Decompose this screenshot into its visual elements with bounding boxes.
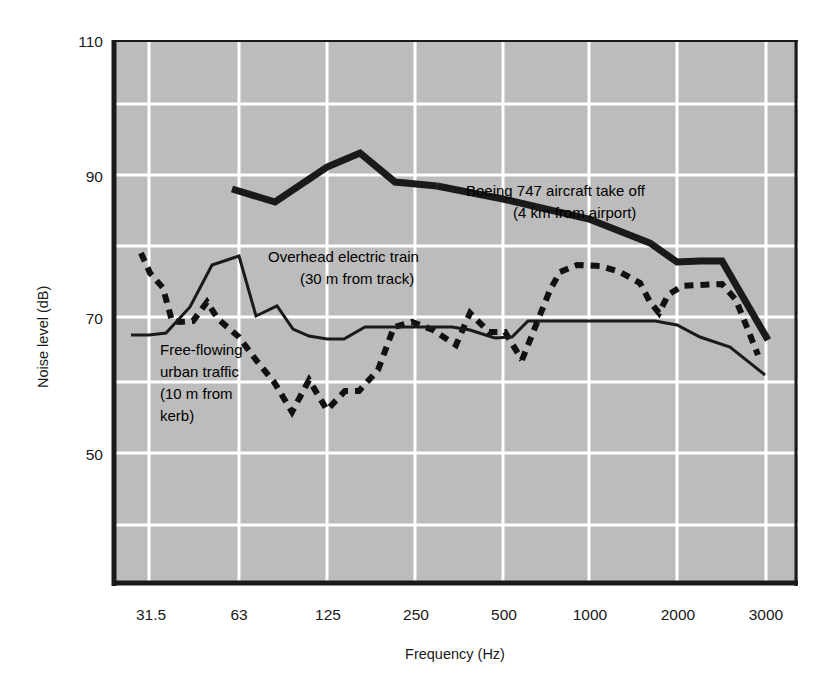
x-axis-ticks: 31.5 63 125 250 500 1000 2000 3000 (136, 606, 784, 623)
annotation-train-line2: (30 m from track) (300, 270, 414, 287)
x-tick-3000: 3000 (749, 606, 784, 623)
y-tick-90: 90 (86, 168, 104, 185)
y-tick-70: 70 (86, 310, 104, 327)
annotation-traffic-line1: Free-flowing (160, 341, 243, 358)
x-tick-250: 250 (403, 606, 429, 623)
noise-level-frequency-chart: 110 90 70 50 Noise level (dB) 31.5 63 12… (0, 0, 824, 691)
annotation-boeing-line1: Boeing 747 aircraft take off (466, 182, 646, 199)
y-axis-ticks: 110 90 70 50 (78, 33, 103, 463)
y-tick-110: 110 (78, 33, 103, 50)
annotation-traffic-line3: (10 m from (160, 385, 233, 402)
annotation-traffic-line2: urban traffic (160, 363, 239, 380)
chart-svg: 110 90 70 50 Noise level (dB) 31.5 63 12… (0, 0, 824, 691)
x-tick-125: 125 (315, 606, 341, 623)
y-tick-50: 50 (86, 446, 104, 463)
x-tick-1000: 1000 (573, 606, 608, 623)
x-axis-label: Frequency (Hz) (405, 646, 505, 662)
x-tick-500: 500 (491, 606, 517, 623)
y-axis-label: Noise level (dB) (35, 286, 51, 388)
annotation-train-line1: Overhead electric train (268, 248, 419, 265)
x-tick-2000: 2000 (661, 606, 696, 623)
x-tick-31-5: 31.5 (136, 606, 166, 623)
x-tick-63: 63 (230, 606, 247, 623)
annotation-traffic-line4: kerb) (160, 407, 194, 424)
annotation-boeing-line2: (4 km from airport) (513, 204, 636, 221)
